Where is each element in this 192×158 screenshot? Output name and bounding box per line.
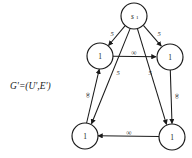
edge-weight-s1-to-v-left: 5 bbox=[116, 69, 120, 76]
node-v-right: 1 bbox=[159, 124, 185, 150]
node-u-left: 1 bbox=[87, 43, 113, 69]
node-label-v-right: 1 bbox=[170, 133, 174, 142]
edge-line-s1-to-v-right bbox=[137, 29, 166, 125]
edge-weight-s1-to-u-right: 5 bbox=[157, 30, 161, 37]
node-circle-s1 bbox=[121, 3, 147, 29]
edge-v-left-to-u-left: ∞ bbox=[83, 69, 99, 123]
edge-s1-to-v-right: 5 bbox=[137, 29, 166, 125]
edge-weight-u-left-to-u-right: ∞ bbox=[131, 48, 136, 57]
edge-weight-u-right-to-v-right: ∞ bbox=[172, 93, 181, 98]
node-label-s1: s bbox=[131, 12, 134, 21]
edge-weight-s1-to-u-left: 5 bbox=[110, 30, 114, 37]
node-u-right: 1 bbox=[157, 44, 183, 70]
node-label-u-right: 1 bbox=[168, 53, 172, 62]
node-label-v-left: 1 bbox=[83, 132, 87, 141]
edge-v-right-to-v-left: ∞ bbox=[98, 128, 159, 137]
edge-u-right-to-v-right: ∞ bbox=[170, 70, 181, 124]
graph-caption: G'=(U',E') bbox=[10, 81, 51, 92]
edge-weight-v-left-to-u-left: ∞ bbox=[83, 92, 92, 97]
edge-s1-to-u-right: 5 bbox=[143, 25, 161, 46]
directed-graph-figure: 5 5 5 5 ∞ ∞ ∞ ∞ s 1 1 bbox=[0, 0, 192, 158]
node-label-u-left: 1 bbox=[98, 52, 102, 61]
node-s1: s 1 bbox=[121, 3, 147, 29]
edge-weight-v-right-to-v-left: ∞ bbox=[126, 128, 131, 137]
edge-s1-to-u-left: 5 bbox=[109, 26, 126, 46]
node-v-left: 1 bbox=[72, 123, 98, 149]
